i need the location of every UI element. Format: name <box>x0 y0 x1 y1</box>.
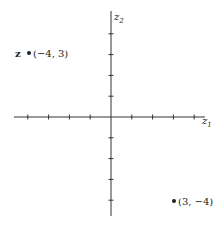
point-2-marker <box>172 199 176 203</box>
complex-plane-diagram: z1 z2 z (−4, 3) (3, −4) <box>0 0 224 225</box>
point-z-marker <box>27 51 31 55</box>
horizontal-axis-label: z1 <box>201 115 212 129</box>
point-z-name: z <box>15 48 21 59</box>
point-2-coords: (3, −4) <box>178 196 213 207</box>
vertical-axis-label: z2 <box>113 11 124 25</box>
point-z-coords: (−4, 3) <box>33 48 68 59</box>
